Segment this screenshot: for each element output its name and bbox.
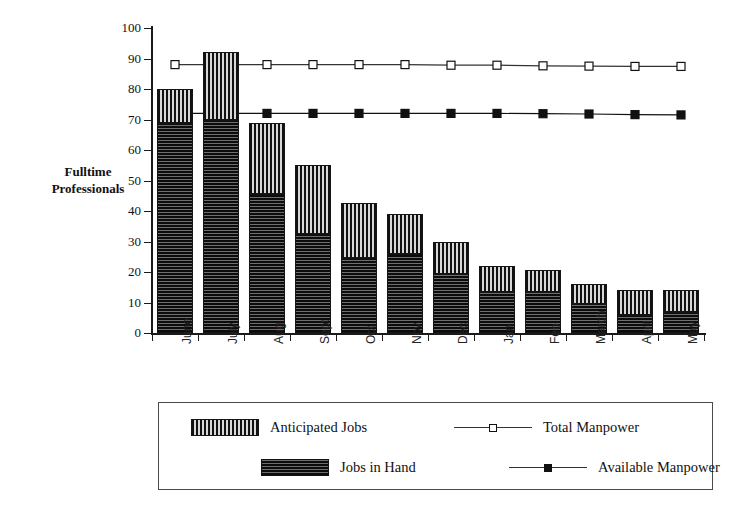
y-tick-mark <box>144 59 152 60</box>
legend-item-jobs-in-hand: Jobs in Hand <box>261 459 416 476</box>
plot-area <box>152 28 704 333</box>
x-tick-label: July <box>226 323 240 344</box>
bar-group[interactable] <box>249 28 285 333</box>
y-tick-label: 100 <box>122 20 142 36</box>
legend-item-total-manpower: Total Manpower <box>454 419 639 436</box>
bar-group[interactable] <box>663 28 699 333</box>
available-manpower-marker-icon <box>509 461 587 475</box>
y-tick-label: 40 <box>128 203 141 219</box>
bar-group[interactable] <box>295 28 331 333</box>
x-tick-label: Jan <box>502 325 516 344</box>
x-tick-mark <box>336 334 337 341</box>
x-tick-label: June <box>180 318 194 344</box>
jobs-in-hand-swatch-icon <box>261 459 329 476</box>
bar-segment-jobs-in-hand[interactable] <box>249 194 285 333</box>
y-tick-mark <box>144 120 152 121</box>
x-tick-label: Nov <box>410 323 424 344</box>
bar-group[interactable] <box>479 28 515 333</box>
bar-segment-anticipated-jobs[interactable] <box>433 242 469 274</box>
bar-group[interactable] <box>571 28 607 333</box>
y-tick-mark <box>144 333 152 334</box>
bar-group[interactable] <box>157 28 193 333</box>
chart-canvas: Fulltime Professionals 01020304050607080… <box>0 0 748 509</box>
y-tick-label: 10 <box>128 295 141 311</box>
y-tick-mark <box>144 181 152 182</box>
bar-segment-anticipated-jobs[interactable] <box>341 203 377 258</box>
x-tick-mark <box>428 334 429 341</box>
bar-segment-jobs-in-hand[interactable] <box>387 254 423 333</box>
x-tick-label: Oct <box>364 325 378 344</box>
x-tick-label: Dec <box>456 323 470 344</box>
y-tick-mark <box>144 150 152 151</box>
bar-group[interactable] <box>341 28 377 333</box>
bar-segment-jobs-in-hand[interactable] <box>341 258 377 333</box>
bar-group[interactable] <box>433 28 469 333</box>
total-manpower-marker-icon <box>454 421 532 435</box>
x-tick-mark <box>658 334 659 341</box>
y-tick-label: 60 <box>128 142 141 158</box>
bar-group[interactable] <box>617 28 653 333</box>
legend-item-available-manpower: Available Manpower <box>509 459 720 476</box>
x-tick-label: March <box>594 311 608 344</box>
bar-segment-jobs-in-hand[interactable] <box>203 120 239 334</box>
x-tick-mark <box>566 334 567 341</box>
x-tick-label: Sept <box>318 319 332 344</box>
bar-segment-anticipated-jobs[interactable] <box>617 290 653 314</box>
x-tick-label: April <box>640 320 654 344</box>
bar-segment-anticipated-jobs[interactable] <box>387 214 423 254</box>
x-tick-mark <box>244 334 245 341</box>
x-tick-label: Aug <box>272 323 286 344</box>
legend-label-total-manpower: Total Manpower <box>543 419 639 436</box>
y-tick-label: 20 <box>128 264 141 280</box>
x-tick-mark <box>290 334 291 341</box>
y-tick-label: 70 <box>128 112 141 128</box>
y-tick-mark <box>144 211 152 212</box>
bar-segment-anticipated-jobs[interactable] <box>525 270 561 291</box>
x-tick-mark <box>520 334 521 341</box>
x-tick-mark <box>382 334 383 341</box>
x-tick-mark <box>198 334 199 341</box>
bar-segment-anticipated-jobs[interactable] <box>479 266 515 292</box>
x-tick-label: Feb <box>548 323 562 344</box>
x-tick-mark <box>474 334 475 341</box>
y-tick-mark <box>144 28 152 29</box>
x-tick-mark <box>612 334 613 341</box>
y-tick-label: 90 <box>128 51 141 67</box>
bar-group[interactable] <box>387 28 423 333</box>
y-tick-label: 80 <box>128 81 141 97</box>
chart-legend: Anticipated Jobs Total Manpower Jobs in … <box>158 402 713 490</box>
bar-group[interactable] <box>525 28 561 333</box>
legend-item-anticipated-jobs: Anticipated Jobs <box>191 419 367 436</box>
y-tick-label: 0 <box>135 325 142 341</box>
x-tick-mark <box>704 334 705 341</box>
legend-label-available-manpower: Available Manpower <box>598 459 720 476</box>
x-tick-label: May <box>686 321 700 344</box>
y-tick-mark <box>144 89 152 90</box>
y-tick-mark <box>144 242 152 243</box>
y-tick-label: 50 <box>128 173 141 189</box>
legend-label-jobs-in-hand: Jobs in Hand <box>340 459 416 476</box>
bar-segment-anticipated-jobs[interactable] <box>295 165 331 234</box>
bar-group[interactable] <box>203 28 239 333</box>
bar-segment-anticipated-jobs[interactable] <box>157 89 193 123</box>
bar-segment-anticipated-jobs[interactable] <box>571 284 607 304</box>
y-tick-mark <box>144 272 152 273</box>
y-tick-label: 30 <box>128 234 141 250</box>
legend-label-anticipated-jobs: Anticipated Jobs <box>270 419 367 436</box>
x-tick-mark <box>152 334 153 341</box>
anticipated-jobs-swatch-icon <box>191 419 259 436</box>
y-tick-mark <box>144 303 152 304</box>
bar-segment-anticipated-jobs[interactable] <box>663 290 699 311</box>
bar-segment-anticipated-jobs[interactable] <box>249 123 285 195</box>
bar-segment-anticipated-jobs[interactable] <box>203 52 239 119</box>
y-axis-tick-labels: 0102030405060708090100 <box>95 28 141 333</box>
bar-segment-jobs-in-hand[interactable] <box>157 123 193 333</box>
